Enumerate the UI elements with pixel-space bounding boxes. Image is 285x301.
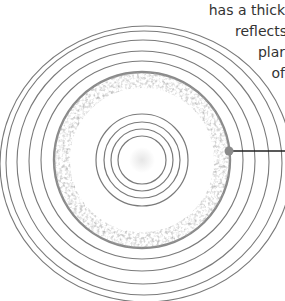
caption-line-3: plar [135, 42, 285, 63]
caption-text: has a thick reflects plar of [135, 0, 285, 84]
caption-line-4: of [135, 63, 285, 84]
caption-line-1: has a thick [135, 0, 285, 21]
caption-line-2: reflects [135, 21, 285, 42]
central-star [129, 147, 155, 173]
